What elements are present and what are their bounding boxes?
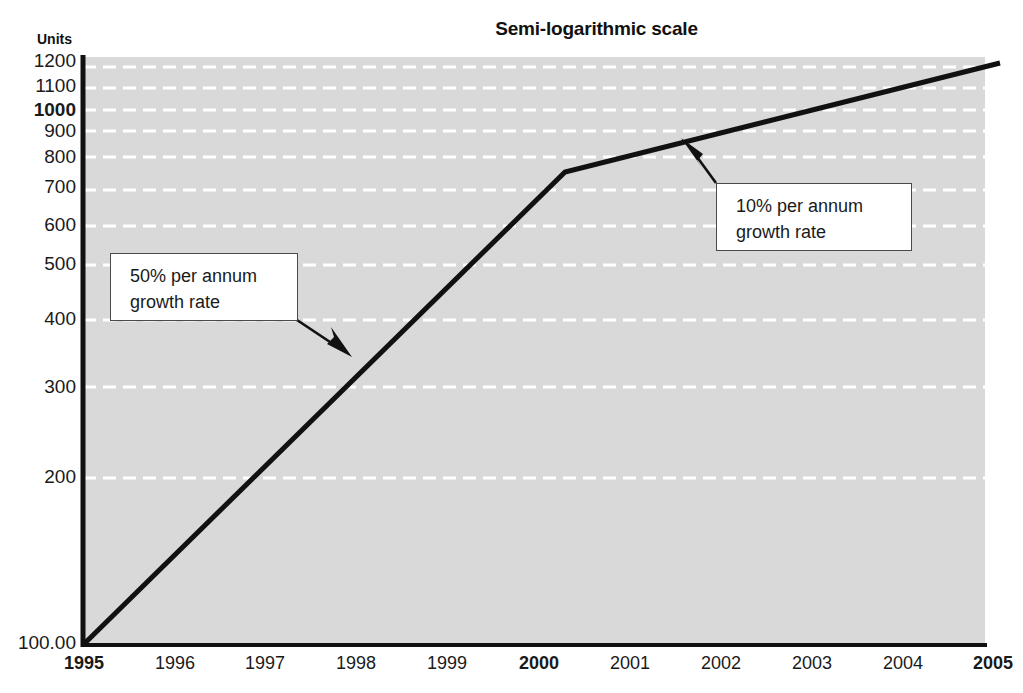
x-tick-1999: 1999 <box>427 653 467 674</box>
x-tick-1998: 1998 <box>336 653 376 674</box>
x-tick-1997: 1997 <box>245 653 285 674</box>
annotation-callout-50-percent: 50% per annum growth rate <box>110 253 298 321</box>
x-tick-2001: 2001 <box>610 653 650 674</box>
x-tick-2005: 2005 <box>973 653 1013 674</box>
x-tick-1996: 1996 <box>155 653 195 674</box>
plot-background <box>83 57 985 645</box>
annotation-10-line1: 10% per annum <box>736 196 863 216</box>
x-tick-2002: 2002 <box>701 653 741 674</box>
x-tick-2004: 2004 <box>883 653 923 674</box>
annotation-10-line2: growth rate <box>736 219 911 245</box>
annotation-callout-10-percent: 10% per annum growth rate <box>716 183 912 251</box>
annotation-50-line1: 50% per annum <box>130 266 257 286</box>
x-tick-1995: 1995 <box>64 653 104 674</box>
chart-container: Semi-logarithmic scale Units 1200 1100 1… <box>0 0 1023 693</box>
plot-area <box>0 0 1023 693</box>
annotation-50-line2: growth rate <box>130 289 297 315</box>
x-tick-2003: 2003 <box>792 653 832 674</box>
x-tick-2000: 2000 <box>519 653 559 674</box>
